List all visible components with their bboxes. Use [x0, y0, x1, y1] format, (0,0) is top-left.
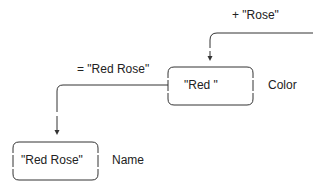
middle-operation-label: = "Red Rose": [77, 62, 149, 76]
color-node-label: Color: [268, 78, 297, 92]
middle-flow-connector: [57, 85, 168, 130]
top-operation-label: + "Rose": [232, 8, 279, 22]
middle-arrowhead-icon: [55, 130, 60, 135]
color-node-value: "Red ": [184, 78, 218, 92]
top-arrowhead-icon: [208, 56, 213, 61]
name-node-value: "Red Rose": [21, 153, 83, 167]
name-node-label: Name: [112, 153, 144, 167]
top-flow-connector: [210, 33, 313, 56]
